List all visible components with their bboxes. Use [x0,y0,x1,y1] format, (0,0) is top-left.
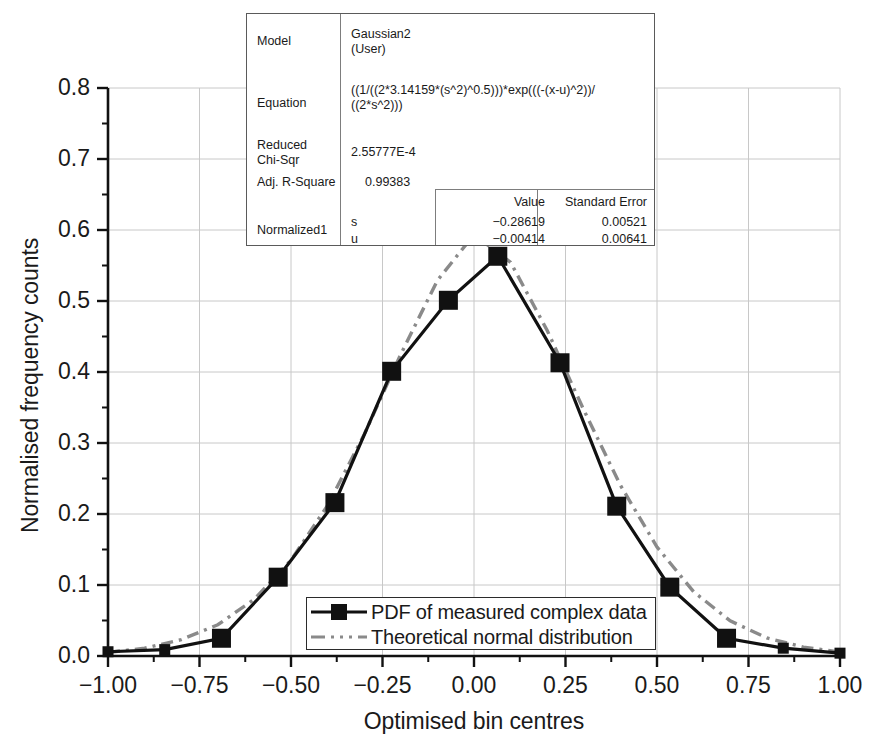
fitbox-value-adj-r-square: 0.99383 [365,175,410,190]
fitbox-divider-left [340,14,341,245]
x-tick-label: 0.00 [424,674,524,697]
fitbox-param-value-s: −0.28619 [445,215,545,230]
fitbox-value-reduced-chi-sqr: 2.55777E-4 [351,145,416,160]
fitbox-divider-value [435,189,436,245]
x-tick-label: 0.25 [516,674,616,697]
x-tick-label: 1.00 [790,674,879,697]
data-point-marker [660,578,679,597]
fitbox-label-adj-r-square: Adj. R-Square [257,175,336,190]
fitbox-label-reduced-chi-sqr: Reduced Chi-Sqr [257,138,307,168]
y-tick-label: 0.8 [58,76,90,99]
data-point-marker [835,648,846,659]
fitbox-param-name-u: u [351,232,358,247]
data-point-marker [607,497,626,516]
data-point-marker [439,291,458,310]
fitbox-param-value-u: −0.00414 [445,232,545,247]
x-tick-label: 0.50 [607,674,707,697]
data-point-marker [382,362,401,381]
data-point-marker [159,644,170,655]
fitbox-row-divider [435,189,654,190]
fitbox-label-equation: Equation [257,96,306,111]
y-tick-label: 0.6 [58,218,90,241]
fit-results-box: Model Gaussian2 (User) Equation ((1/((2*… [246,13,655,246]
data-point-marker [212,629,231,648]
data-point-marker [325,493,344,512]
data-point-marker [551,353,570,372]
chart-legend: PDF of measured complex data Theoretical… [306,597,656,650]
legend-symbol-dash-dot-line [307,625,371,649]
y-tick-label: 0.4 [58,360,90,383]
data-point-marker [717,629,736,648]
fitbox-label-model: Model [257,34,291,49]
y-tick-label: 0.1 [58,573,90,596]
y-tick-label: 0.7 [58,147,90,170]
y-tick-label: 0.2 [58,502,90,525]
data-point-marker [103,646,114,657]
fitbox-header-standard-error: Standard Error [547,195,647,210]
legend-entry-theoretical: Theoretical normal distribution [307,624,655,650]
fitbox-param-group: Normalized1 [257,223,327,238]
legend-symbol-solid-square-line [307,600,371,624]
y-axis-title: Normalised frequency counts [17,151,44,621]
x-tick-label: −0.25 [333,674,433,697]
x-axis-title: Optimised bin centres [108,708,840,735]
fitbox-param-name-s: s [351,215,357,230]
y-tick-label: 0.3 [58,431,90,454]
y-tick-label: 0.5 [58,289,90,312]
x-tick-label: −1.00 [58,674,158,697]
fitbox-header-value: Value [445,195,545,210]
legend-label-theoretical: Theoretical normal distribution [371,626,633,649]
data-point-marker [778,643,789,654]
x-tick-label: 0.75 [699,674,799,697]
data-point-marker [269,568,288,587]
fitbox-value-model: Gaussian2 (User) [351,27,411,57]
fitbox-param-error-s: 0.00521 [547,215,647,230]
y-tick-label: 0.0 [58,644,90,667]
legend-entry-measured: PDF of measured complex data [307,599,655,625]
data-point-marker [488,247,507,266]
x-tick-label: −0.50 [241,674,341,697]
fitbox-value-equation: ((1/((2*3.14159*(s^2)^0.5)))*exp(((-(x-u… [351,83,595,113]
legend-label-measured: PDF of measured complex data [371,601,647,624]
chart-figure: 0.00.10.20.30.40.50.60.70.8 −1.00−0.75−0… [0,0,879,755]
fitbox-param-error-u: 0.00641 [547,232,647,247]
x-tick-label: −0.75 [150,674,250,697]
